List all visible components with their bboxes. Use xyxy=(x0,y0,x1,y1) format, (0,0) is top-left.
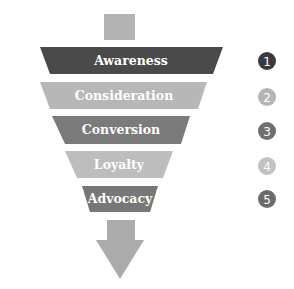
stage-label: Conversion xyxy=(82,122,160,137)
stage-number: 4 xyxy=(263,160,271,174)
stage-number: 2 xyxy=(263,91,271,105)
funnel-stage-advocacy: Advocacy 5 xyxy=(82,186,276,212)
stage-label: Consideration xyxy=(75,88,174,103)
funnel-stage-loyalty: Loyalty 4 xyxy=(65,151,276,178)
stage-label: Awareness xyxy=(93,53,168,68)
top-input-block xyxy=(104,14,135,40)
stage-number: 5 xyxy=(263,193,271,207)
stage-number: 1 xyxy=(263,55,271,69)
down-arrow-icon xyxy=(96,220,144,279)
funnel-stage-awareness: Awareness 1 xyxy=(40,47,276,74)
stage-label: Loyalty xyxy=(94,157,145,172)
funnel-stage-consideration: Consideration 2 xyxy=(40,82,276,109)
stage-label: Advocacy xyxy=(87,191,153,206)
funnel-diagram: Awareness 1 Consideration 2 Conversion 3… xyxy=(0,0,294,289)
stage-number: 3 xyxy=(263,125,271,139)
funnel-stage-conversion: Conversion 3 xyxy=(52,116,276,144)
